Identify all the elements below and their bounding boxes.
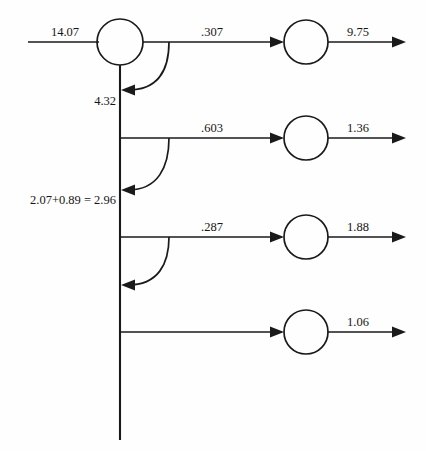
- feedback-arc-1: [128, 42, 169, 90]
- stage-4-outlet-label: 1.06: [347, 315, 369, 329]
- feedback-arc-2: [128, 138, 169, 190]
- stage-1-inlet-arrowhead: [270, 37, 284, 48]
- stage-2-node: [284, 116, 328, 160]
- stage-1-outlet-label: 9.75: [347, 25, 369, 39]
- input-feed-label: 14.07: [51, 25, 79, 39]
- feedback-arc-1-arrowhead: [121, 85, 135, 96]
- stage-2-outlet-arrowhead: [392, 133, 406, 144]
- stage-3-node: [284, 215, 328, 259]
- stage-1-inlet-label: .307: [201, 25, 223, 39]
- stage-4-node: [284, 310, 328, 354]
- stage-3-outlet-arrowhead: [392, 232, 406, 243]
- feedback-arc-2-arrowhead: [121, 185, 135, 196]
- splitter-node: [97, 19, 143, 65]
- stage-4-outlet-arrowhead: [392, 327, 406, 338]
- trunk-label-1: 4.32: [94, 94, 116, 108]
- stage-4-inlet-arrowhead: [270, 327, 284, 338]
- stage-2-inlet-label: .603: [201, 121, 223, 135]
- stage-3-inlet-label: .287: [201, 220, 223, 234]
- flow-diagram: 14.07 .307 9.75 4.32 2.07+0.89 = 2.96 .6…: [0, 0, 426, 451]
- stage-2-inlet-arrowhead: [270, 133, 284, 144]
- stage-3-outlet-label: 1.88: [347, 220, 369, 234]
- trunk-label-2: 2.07+0.89 = 2.96: [30, 193, 116, 207]
- stage-3-inlet-arrowhead: [270, 232, 284, 243]
- stage-2-outlet-label: 1.36: [347, 121, 369, 135]
- stage-1-node: [284, 20, 328, 64]
- stage-1-outlet-arrowhead: [392, 37, 406, 48]
- feedback-arc-3: [128, 237, 169, 285]
- feedback-arc-3-arrowhead: [121, 280, 135, 291]
- flow-diagram-canvas: 14.07 .307 9.75 4.32 2.07+0.89 = 2.96 .6…: [0, 0, 426, 451]
